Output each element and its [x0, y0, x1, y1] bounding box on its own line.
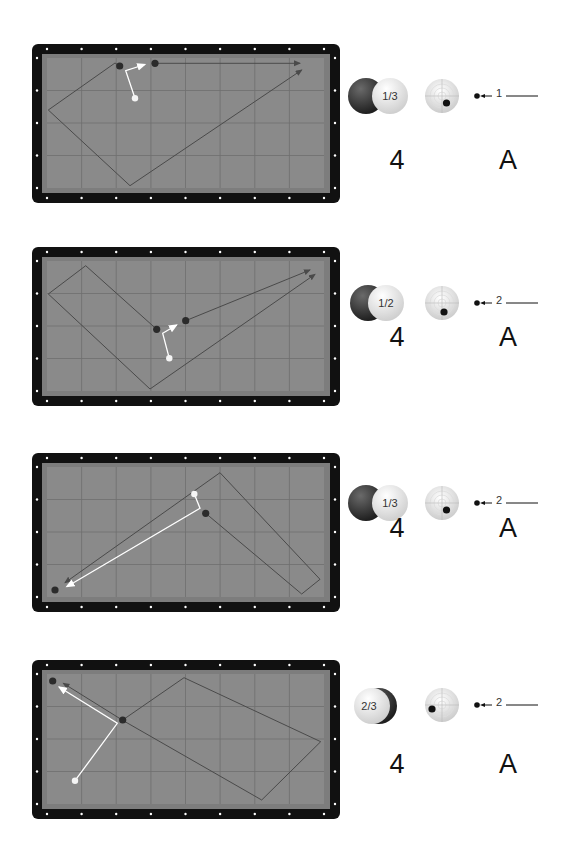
speed-indicator: 2	[472, 493, 542, 513]
stroke-letter: A	[493, 322, 523, 353]
stroke-number: 4	[382, 322, 412, 353]
stroke-letter: A	[493, 513, 523, 544]
svg-text:1/2: 1/2	[378, 297, 393, 309]
object-ball-2	[49, 677, 56, 684]
svg-text:1/3: 1/3	[382, 497, 397, 509]
stroke-letter: A	[493, 749, 523, 780]
object-ball-1	[116, 62, 123, 69]
table-svg	[32, 44, 340, 203]
object-ball-1	[119, 716, 126, 723]
cue-tip-target-icon	[424, 285, 460, 321]
stroke-number: 4	[382, 145, 412, 176]
cue-tip-target-icon	[424, 687, 460, 723]
object-ball-2	[151, 60, 158, 67]
billiard-table	[32, 44, 340, 203]
ball-contact-icon: 2/3	[347, 686, 409, 726]
ball-contact-icon: 1/3	[347, 76, 409, 116]
cue-tip-target-icon	[424, 78, 460, 114]
object-ball-1	[153, 326, 160, 333]
svg-text:1/3: 1/3	[382, 90, 397, 102]
object-ball-2	[51, 586, 58, 593]
svg-text:2/3: 2/3	[361, 700, 376, 712]
speed-value: 2	[492, 494, 506, 506]
ball-contact-icon: 1/2	[347, 283, 409, 323]
speed-indicator: 2	[472, 695, 542, 715]
cue-tip-target-icon	[424, 485, 460, 521]
shot-diagram-1: 1/3 1 4 A	[0, 44, 569, 214]
cue-ball	[132, 95, 138, 101]
table-svg	[32, 453, 340, 612]
cue-ball	[191, 491, 197, 497]
stroke-number: 4	[382, 749, 412, 780]
table-svg	[32, 247, 340, 406]
billiard-table	[32, 453, 340, 612]
stroke-letter: A	[493, 145, 523, 176]
shot-diagram-2: 1/2 2 4 A	[0, 247, 569, 417]
speed-value: 2	[492, 294, 506, 306]
billiard-table	[32, 247, 340, 406]
shot-diagram-4: 2/3 2 4 A	[0, 660, 569, 830]
table-svg	[32, 660, 340, 819]
object-ball-2	[182, 317, 189, 324]
billiard-table	[32, 660, 340, 819]
speed-indicator: 2	[472, 293, 542, 313]
stroke-number: 4	[382, 513, 412, 544]
cue-ball	[166, 355, 172, 361]
speed-value: 1	[492, 87, 506, 99]
object-ball-1	[202, 510, 209, 517]
speed-indicator: 1	[472, 86, 542, 106]
speed-value: 2	[492, 696, 506, 708]
shot-diagram-3: 1/3 2 4 A	[0, 453, 569, 623]
cue-ball	[72, 778, 78, 784]
